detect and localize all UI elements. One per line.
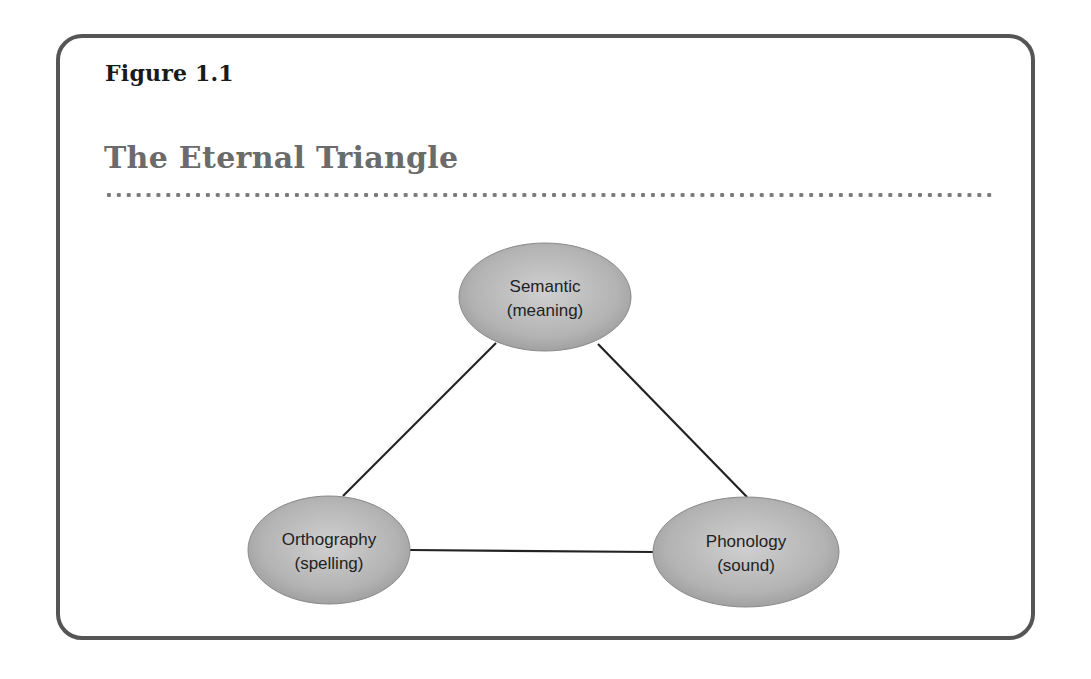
node-orthography: Orthography (spelling): [248, 496, 410, 604]
node-semantic-subtitle: (meaning): [507, 301, 584, 320]
node-phonology-title: Phonology: [706, 532, 787, 551]
node-orthography-subtitle: (spelling): [295, 554, 364, 573]
node-phonology-subtitle: (sound): [717, 556, 775, 575]
edge-semantic-orthography: [343, 343, 496, 496]
triangle-diagram: Semantic (meaning) Orthography (spelling…: [0, 0, 1091, 679]
node-semantic-title: Semantic: [510, 277, 581, 296]
node-phonology: Phonology (sound): [653, 497, 839, 607]
node-orthography-title: Orthography: [282, 530, 377, 549]
edge-semantic-phonology: [598, 344, 747, 497]
edge-orthography-phonology: [410, 550, 654, 552]
node-semantic: Semantic (meaning): [459, 243, 631, 351]
